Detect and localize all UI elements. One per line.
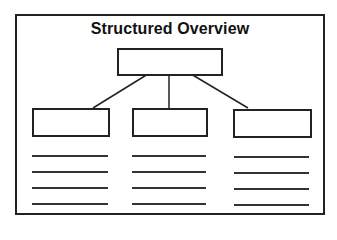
writing-line [234, 204, 309, 206]
writing-line [234, 172, 309, 174]
writing-line [132, 187, 206, 189]
root-box [117, 48, 223, 76]
writing-line [32, 155, 108, 157]
writing-line [32, 187, 108, 189]
child-box-left [32, 108, 110, 137]
writing-line [32, 203, 108, 205]
writing-line [32, 171, 108, 173]
writing-line [234, 156, 309, 158]
writing-line [132, 155, 206, 157]
child-box-middle [132, 108, 208, 137]
writing-line [132, 171, 206, 173]
writing-line [234, 188, 309, 190]
child-box-right [233, 109, 312, 138]
writing-line [132, 203, 206, 205]
